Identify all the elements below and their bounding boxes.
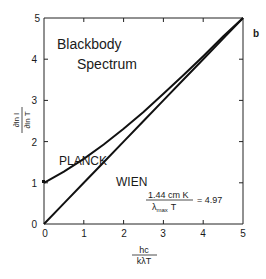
panel-label: b: [253, 28, 259, 39]
y-tick-label: 3: [31, 95, 37, 106]
x-tick-label: 4: [200, 228, 206, 239]
x-tick-label: 2: [121, 228, 127, 239]
x-axis-label: hc kλT: [132, 245, 157, 266]
x-tick-label: 0: [42, 228, 48, 239]
y-tick-label: 5: [34, 13, 40, 24]
x-axis-label-numerator: hc: [139, 245, 149, 255]
wien-displacement-annotation: 1.44 cm K λmaxT = 4.97: [146, 190, 222, 213]
chart: 0 1 2 3 4 5 0 1 2 3 4 5 Blackbody Spectr…: [0, 0, 266, 279]
y-axis-label: ∂ln I ∂ln T: [12, 107, 32, 133]
chart-title-line2: Spectrum: [77, 56, 137, 72]
y-axis-label-numerator: ∂ln I: [12, 113, 21, 128]
planck-label: PLANCK: [59, 154, 107, 168]
y-tick-label: 4: [31, 54, 37, 65]
y-axis-label-denominator: ∂ln T: [23, 111, 32, 128]
y-tick-labels: 0 1 2 3 4 5: [31, 13, 40, 230]
wien-label: WIEN: [116, 175, 147, 189]
x-tick-label: 3: [160, 228, 166, 239]
y-tick-label: 0: [31, 219, 37, 230]
x-tick-labels: 0 1 2 3 4 5: [42, 228, 246, 239]
annotation-denominator: λmaxT: [152, 202, 177, 213]
x-tick-label: 1: [81, 228, 87, 239]
x-axis-label-denominator: kλT: [137, 256, 152, 266]
planck-start-marker: [42, 180, 45, 183]
chart-title-line1: Blackbody: [57, 36, 122, 52]
annotation-result: = 4.97: [197, 195, 222, 205]
x-tick-label: 5: [240, 228, 246, 239]
y-tick-label: 2: [31, 137, 37, 148]
y-tick-label: 1: [31, 178, 37, 189]
annotation-numerator: 1.44 cm K: [148, 190, 189, 200]
